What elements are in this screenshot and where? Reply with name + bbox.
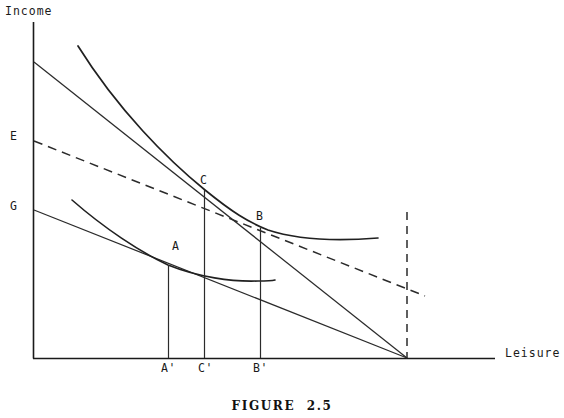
figure-caption: FIGURE 2.5 bbox=[0, 399, 564, 413]
economics-diagram bbox=[0, 0, 564, 418]
figure-container: Income Leisure E G A B C A' C' B' FIGURE… bbox=[0, 0, 564, 418]
axis-tick-label-B-prime: B' bbox=[253, 363, 268, 374]
axis-tick-label-A-prime: A' bbox=[161, 363, 176, 374]
budget-line-E-dashed bbox=[34, 141, 425, 296]
budget-line-G bbox=[34, 210, 407, 358]
y-axis-label: Income bbox=[5, 6, 53, 17]
point-label-A: A bbox=[172, 241, 179, 252]
budget-line-steep bbox=[34, 62, 407, 358]
intercept-label-G: G bbox=[10, 201, 17, 212]
point-label-C: C bbox=[200, 175, 207, 186]
axis-tick-label-C-prime: C' bbox=[198, 363, 213, 374]
intercept-label-E: E bbox=[10, 131, 17, 142]
indifference-curve-high bbox=[78, 46, 378, 239]
point-label-B: B bbox=[256, 211, 263, 222]
x-axis-label: Leisure bbox=[505, 348, 560, 359]
